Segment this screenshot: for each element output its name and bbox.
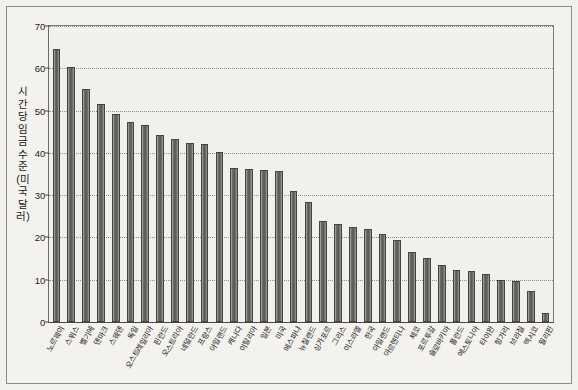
- bar: [156, 135, 164, 322]
- bar: [97, 104, 105, 322]
- bar-series: 노르웨이스위스벨기에덴마크스웨덴독일오스트레일리아핀란드오스트리아네덜란드프랑스…: [49, 26, 553, 322]
- bar: [438, 265, 446, 322]
- bar: [127, 122, 135, 322]
- y-tick-label-50: 50: [35, 105, 45, 116]
- bar: [542, 313, 550, 322]
- bar: [497, 280, 505, 322]
- bar: [305, 202, 313, 322]
- bar: [53, 49, 61, 322]
- bar: [423, 258, 431, 322]
- bar: [67, 67, 75, 322]
- bar: [364, 229, 372, 322]
- bar: [408, 252, 416, 322]
- bar: [112, 114, 120, 322]
- x-tick-label: 필리핀: [538, 325, 555, 347]
- bar: [275, 171, 283, 322]
- x-tick-label: 타이완: [479, 325, 496, 347]
- x-tick-label: 스위스: [64, 325, 81, 347]
- y-tick-label-70: 70: [35, 21, 45, 32]
- bar: [319, 221, 327, 322]
- bar: [141, 125, 149, 322]
- bar: [379, 234, 387, 322]
- bar: [334, 224, 342, 322]
- bar: [186, 143, 194, 322]
- bar: [482, 274, 490, 322]
- chart-figure: 시간당 임금 수준(미국 달러) 706050403020100 노르웨이스위스…: [6, 6, 572, 384]
- bar: [216, 152, 224, 322]
- y-tick-label-10: 10: [35, 274, 45, 285]
- y-tick-label-60: 60: [35, 63, 45, 74]
- bar: [453, 270, 461, 322]
- bar: [230, 168, 238, 322]
- bar: [290, 191, 298, 322]
- bar: [260, 170, 268, 322]
- y-tick-label-40: 40: [35, 147, 45, 158]
- gridline-0: [49, 322, 553, 323]
- y-axis-title: 시간당 임금 수준(미국 달러): [15, 85, 31, 223]
- plot-area: 706050403020100 노르웨이스위스벨기에덴마크스웨덴독일오스트레일리…: [48, 25, 554, 323]
- x-tick-label: 노르웨이: [46, 325, 67, 353]
- bar: [171, 139, 179, 322]
- x-tick-label: 일본: [260, 325, 274, 341]
- bar: [349, 227, 357, 322]
- y-tick-label-0: 0: [40, 317, 45, 328]
- bar: [245, 169, 253, 322]
- bar: [393, 240, 401, 322]
- bar: [82, 89, 90, 322]
- bar: [468, 271, 476, 322]
- y-tick-label-20: 20: [35, 232, 45, 243]
- bar: [527, 291, 535, 322]
- y-tick-label-30: 30: [35, 190, 45, 201]
- x-tick-label: 스웨덴: [109, 325, 126, 347]
- bar: [201, 144, 209, 322]
- bar: [512, 281, 520, 322]
